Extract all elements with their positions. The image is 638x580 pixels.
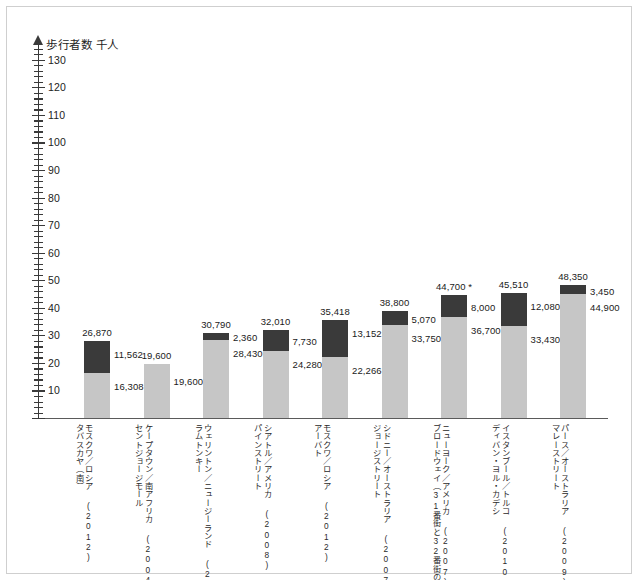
y-tick-minor [34,176,43,177]
y-tick-minor [34,374,43,375]
y-tick-minor [34,247,43,248]
y-tick-minor [34,187,43,188]
bar-column[interactable] [263,330,289,418]
y-tick-minor [34,98,43,99]
bar-column[interactable] [84,341,110,418]
category-street-name: タバスカヤ（南） [74,424,83,554]
y-tick-minor [34,165,43,166]
y-tick-major [32,308,45,309]
y-tick-minor [34,65,43,66]
y-tick-label: 120 [48,81,66,93]
y-tick-minor [34,159,43,160]
bar-segment-bottom[interactable] [441,317,467,418]
bar-bottom-value-label: 19,600 [174,376,204,387]
y-tick-label: 130 [48,54,66,66]
y-tick-minor [34,192,43,193]
y-tick-minor [34,264,43,265]
bar-segment-top[interactable] [441,295,467,317]
bar-segment-bottom[interactable] [263,351,289,418]
bar-column[interactable] [382,311,408,418]
y-tick-minor [34,71,43,72]
bar-bottom-value-label: 44,900 [590,302,620,313]
category-city-year: シドニー／オーストラリア (2007) [381,424,390,554]
bar-top-value-label: 3,450 [590,286,614,297]
bar-segment-top[interactable] [84,341,110,373]
bar-segment-top[interactable] [382,311,408,325]
bar-total-label: 44,700 * [436,281,472,292]
y-tick-minor [34,258,43,259]
bar-column[interactable] [203,333,229,418]
bar-column[interactable] [144,364,170,418]
y-tick-minor [34,302,43,303]
y-tick-minor [34,93,43,94]
y-tick-label: 80 [48,192,60,204]
bar-total-label: 32,010 [261,316,291,327]
y-tick-major [32,142,45,143]
bar-total-label: 30,790 [201,319,231,330]
bar-column[interactable] [560,285,586,418]
y-tick-minor [34,357,43,358]
bar-total-label: 48,350 [558,271,588,282]
category-label: マレーストリートパース／オーストラリア (2009) [550,424,568,554]
y-tick-major [32,60,45,61]
category-city-year: ニューヨーク／アメリカ (2007) [441,424,450,554]
y-tick-minor [34,396,43,397]
y-tick-major [32,198,45,199]
bar-bottom-value-label: 22,266 [352,365,382,376]
y-tick-minor [34,346,43,347]
bar-segment-bottom[interactable] [382,325,408,418]
y-tick-minor [34,76,43,77]
bar-column[interactable] [441,295,467,418]
y-tick-label: 60 [48,247,60,259]
bar-segment-bottom[interactable] [144,364,170,418]
category-city-year: ケープタウン／南アフリカ (2004) [143,424,152,554]
y-tick-minor [34,154,43,155]
y-tick-minor [34,368,43,369]
y-tick-label: 110 [48,109,65,121]
bar-segment-bottom[interactable] [501,326,527,418]
y-tick-minor [34,341,43,342]
y-tick-minor [34,203,43,204]
bar-segment-bottom[interactable] [322,357,348,418]
bar-segment-top[interactable] [263,330,289,351]
category-city-year: モスクワ／ロシア (2012) [84,424,93,554]
y-tick-label: 40 [48,302,60,314]
y-tick-major [32,225,45,226]
y-axis-title: 歩行者数 千人 [46,36,119,52]
bar-column[interactable] [322,320,348,418]
y-tick-minor [34,379,43,380]
category-street-name: アーバト [312,424,321,554]
category-city-year: シアトル／アメリカ (2008) [262,424,271,554]
bar-column[interactable] [501,293,527,418]
category-city-year: パース／オーストラリア (2009) [560,424,569,554]
y-tick-minor [34,181,43,182]
y-tick-minor [34,82,43,83]
y-tick-label: 10 [48,384,60,396]
y-tick-minor [34,49,43,50]
bar-segment-bottom[interactable] [560,294,586,418]
category-label: ディバン・ヨル・カデシイスタンブール／トルコ (2010-11) [491,424,509,554]
bar-top-value-label: 11,562 [114,349,143,360]
bar-segment-top[interactable] [501,293,527,326]
y-tick-minor [34,231,43,232]
category-street-name: ディバン・ヨル・カデシ [491,424,500,554]
x-axis-line [38,418,608,419]
y-tick-major [32,253,45,254]
bar-total-label: 19,600 [142,350,172,361]
bar-segment-top[interactable] [322,320,348,356]
bar-segment-top[interactable] [560,285,586,295]
y-tick-minor [34,286,43,287]
y-tick-major [32,418,45,419]
bar-segment-bottom[interactable] [203,340,229,418]
y-tick-label: 100 [48,136,66,148]
bar-total-label: 35,418 [320,306,350,317]
y-tick-minor [34,319,43,320]
y-tick-major [32,390,45,391]
y-tick-major [32,363,45,364]
category-street-name: マレーストリート [550,424,559,554]
y-tick-minor [34,413,43,414]
y-tick-minor [34,209,43,210]
bar-segment-bottom[interactable] [84,373,110,418]
y-tick-label: 70 [48,219,60,231]
y-tick-minor [34,137,43,138]
